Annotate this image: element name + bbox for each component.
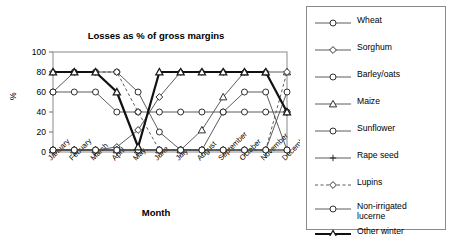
data-point-circle [330, 128, 336, 134]
data-point-circle [178, 147, 184, 153]
legend-label: Lupins [357, 177, 382, 187]
data-point-circle [50, 147, 56, 153]
chart-legend: WheatSorghumBarley/oatsMaizeSunflowerRap… [306, 6, 446, 230]
plot-area: Losses as % of gross margins % Month 020… [0, 0, 300, 236]
legend-item-sunflower[interactable]: Sunflower [313, 123, 395, 135]
legend-key-circle-icon [313, 15, 353, 27]
data-point-circle [93, 147, 99, 153]
data-point-circle [220, 109, 226, 115]
legend-key-plus-icon [313, 150, 353, 162]
legend-label: Other winter crops [357, 226, 404, 236]
legend-item-non-irrigated-lucerne[interactable]: Non-irrigated lucerne [313, 201, 407, 221]
y-tick-label: 20 [37, 127, 47, 137]
data-point-circle [50, 89, 56, 95]
data-point-circle [330, 206, 336, 212]
data-point-circle [71, 89, 77, 95]
legend-key-diamond-icon [313, 42, 353, 54]
data-point-circle [241, 89, 247, 95]
legend-key-triangle-icon [313, 226, 353, 236]
legend-label: Sorghum [357, 42, 392, 52]
data-point-circle [199, 147, 205, 153]
data-point-circle [199, 109, 205, 115]
data-point-circle [284, 147, 290, 153]
legend-key-diamond-icon [313, 177, 353, 189]
y-tick-label: 60 [37, 87, 47, 97]
data-point-circle [156, 109, 162, 115]
data-point-circle [114, 109, 120, 115]
data-point-circle [220, 147, 226, 153]
data-point-circle [93, 89, 99, 95]
data-point-circle [330, 20, 336, 26]
legend-label: Maize [357, 96, 380, 106]
legend-label: Wheat [357, 15, 382, 25]
legend-item-wheat[interactable]: Wheat [313, 15, 382, 27]
y-tick-label: 80 [37, 67, 47, 77]
series-line [53, 72, 287, 147]
legend-item-barley-oats[interactable]: Barley/oats [313, 69, 400, 81]
data-point-plus [330, 155, 336, 161]
x-tick-label: June [152, 144, 170, 162]
series-2 [50, 89, 290, 115]
line-chart-svg: 020406080100JanuaryFebuaryMarchAprilMayJ… [0, 0, 300, 236]
data-point-circle [284, 89, 290, 95]
series-line [53, 92, 287, 112]
legend-label: Rape seed [357, 150, 399, 160]
plot-frame [53, 52, 287, 152]
y-tick-label: 40 [37, 107, 47, 117]
data-point-circle [241, 147, 247, 153]
chart-figure: Losses as % of gross margins % Month 020… [0, 0, 452, 236]
legend-key-circle-icon [313, 123, 353, 135]
legend-label: Sunflower [357, 123, 395, 133]
legend-label: Non-irrigated lucerne [357, 201, 407, 221]
data-point-circle [71, 147, 77, 153]
data-point-diamond [330, 182, 337, 189]
legend-key-triangle-icon [313, 96, 353, 108]
legend-key-circle-icon [313, 201, 353, 213]
legend-item-other-winter-crops[interactable]: Other winter crops [313, 226, 404, 236]
legend-item-sorghum[interactable]: Sorghum [313, 42, 392, 54]
legend-item-maize[interactable]: Maize [313, 96, 380, 108]
legend-item-lupins[interactable]: Lupins [313, 177, 382, 189]
data-point-triangle [198, 126, 205, 132]
data-point-circle [114, 147, 120, 153]
y-tick-label: 100 [32, 47, 46, 57]
data-point-circle [178, 109, 184, 115]
data-point-circle [156, 147, 162, 153]
legend-item-rape-seed[interactable]: Rape seed [313, 150, 399, 162]
data-point-circle [241, 109, 247, 115]
data-point-circle [330, 74, 336, 80]
data-point-circle [263, 89, 269, 95]
data-point-diamond [330, 47, 337, 54]
legend-label: Barley/oats [357, 69, 400, 79]
data-point-circle [263, 147, 269, 153]
data-point-circle [263, 109, 269, 115]
data-point-circle [156, 129, 162, 135]
legend-key-circle-icon [313, 69, 353, 81]
data-point-circle [135, 89, 141, 95]
